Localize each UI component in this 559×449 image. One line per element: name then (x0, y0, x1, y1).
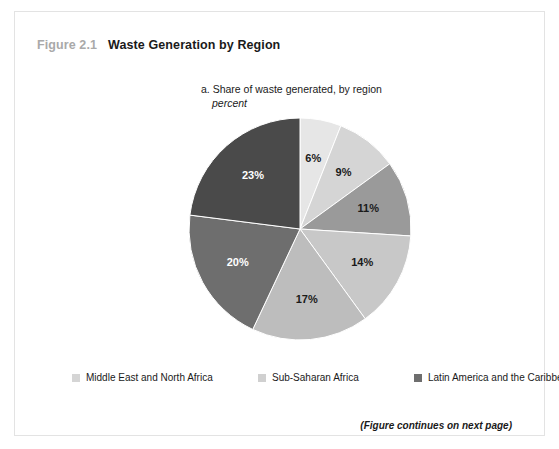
pie-slice-label: 9% (336, 166, 352, 178)
panel-caption: a. Share of waste generated, by region p… (201, 82, 501, 110)
figure-header: Figure 2.1 Waste Generation by Region (37, 38, 280, 52)
legend-swatch (414, 374, 422, 382)
legend-item[interactable]: Sub-Saharan Africa (258, 372, 414, 383)
legend-swatch (258, 374, 266, 382)
panel-units: percent (201, 96, 501, 110)
panel-caption-text: a. Share of waste generated, by region (201, 83, 382, 95)
legend-item-label: Middle East and North Africa (86, 372, 213, 383)
chart-legend: Middle East and North AfricaSub-Saharan … (72, 370, 559, 385)
pie-slice-label: 14% (351, 256, 373, 268)
legend-swatch (72, 374, 80, 382)
figure-title: Waste Generation by Region (108, 38, 280, 52)
figure-footnote: (Figure continues on next page) (360, 420, 512, 431)
legend-item[interactable]: Latin America and the Caribbean (414, 372, 559, 383)
pie-slice-label: 11% (358, 202, 380, 214)
pie-slice-label: 6% (305, 152, 321, 164)
figure-card: Figure 2.1 Waste Generation by Region a.… (14, 11, 545, 436)
pie-slice-label: 20% (227, 256, 249, 268)
legend-item-label: Sub-Saharan Africa (272, 372, 359, 383)
figure-number: Figure 2.1 (37, 38, 97, 52)
legend-item[interactable]: Middle East and North Africa (72, 372, 258, 383)
pie-chart: 6%9%11%14%17%20%23% (180, 109, 420, 349)
pie-slices (189, 118, 411, 340)
pie-chart-svg: 6%9%11%14%17%20%23% (180, 109, 420, 349)
pie-slice-label: 23% (242, 169, 264, 181)
pie-slice-label: 17% (296, 293, 318, 305)
legend-item-label: Latin America and the Caribbean (428, 372, 559, 383)
